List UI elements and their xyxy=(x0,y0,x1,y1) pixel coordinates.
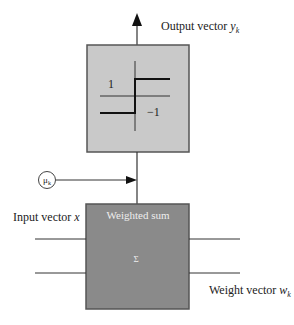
weight-label: Weight vector wk xyxy=(209,283,291,299)
arrowhead-up-icon xyxy=(132,13,142,26)
output-label: Output vector yk xyxy=(161,19,240,35)
input-label: Input vector x xyxy=(13,210,80,224)
output-arrow xyxy=(132,13,142,45)
weighted-sum-block: Weighted sum Σ xyxy=(86,204,189,309)
sigma-icon: Σ xyxy=(133,254,138,264)
label-high: 1 xyxy=(108,77,114,91)
label-low: −1 xyxy=(147,105,160,119)
activation-block: 1 −1 xyxy=(87,45,189,152)
weight-lines xyxy=(189,239,240,273)
perceptron-diagram: Output vector yk 1 −1 μk Weighted sum Σ xyxy=(0,0,294,325)
input-lines xyxy=(35,239,86,273)
weighted-sum-title: Weighted sum xyxy=(107,209,170,221)
learning-rate-node: μk xyxy=(39,172,138,189)
arrowhead-right-icon xyxy=(126,176,137,184)
